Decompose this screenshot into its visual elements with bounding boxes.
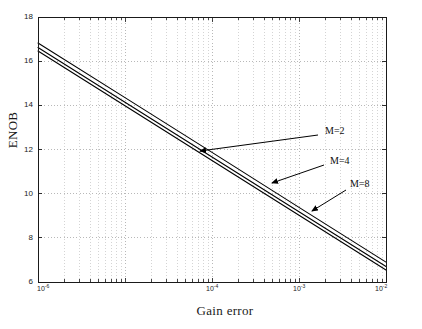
- figure-canvas: ENOB Gain error 181614121086 10-610-410-…: [0, 0, 422, 329]
- x-axis-title: Gain error: [160, 303, 290, 319]
- y-tick-label: 14: [17, 100, 33, 109]
- y-tick-label: 10: [17, 189, 33, 198]
- x-tick-label: 10-6: [37, 285, 49, 292]
- x-tick-label: 10-3: [293, 285, 305, 292]
- series-annotation-label: M=2: [325, 125, 345, 136]
- chart-plot-area: [0, 0, 422, 329]
- x-tick-label: 10-4: [206, 285, 218, 292]
- series-annotation-label: M=8: [350, 178, 370, 189]
- y-tick-label: 16: [17, 56, 33, 65]
- y-tick-label: 18: [17, 12, 33, 21]
- y-tick-label: 6: [17, 277, 33, 286]
- y-tick-label: 12: [17, 145, 33, 154]
- y-tick-label: 8: [17, 233, 33, 242]
- series-annotation-label: M=4: [330, 155, 350, 166]
- x-tick-label: 10-2: [375, 285, 387, 292]
